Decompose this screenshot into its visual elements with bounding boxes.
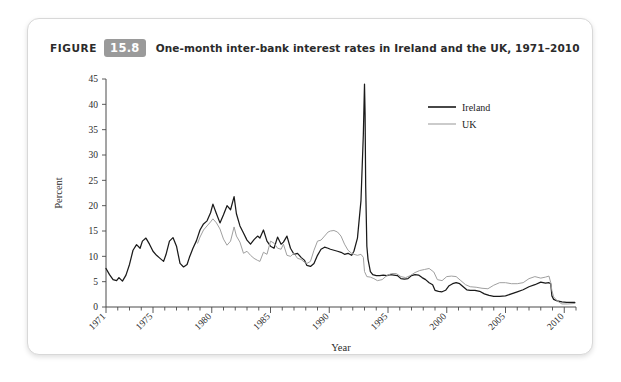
chart-plot-area: 051015202530354045 197119751980198519901… <box>28 67 594 357</box>
x-tick-label: 1975 <box>134 311 155 332</box>
y-tick-label: 0 <box>93 302 98 312</box>
y-axis-tick-labels: 051015202530354045 <box>89 74 99 312</box>
series-line-ireland <box>106 84 575 302</box>
x-tick-label: 1971 <box>87 311 108 332</box>
series-lines <box>106 84 575 304</box>
figure-title: One-month inter-bank interest rates in I… <box>156 42 580 54</box>
x-tick-label: 2000 <box>428 311 449 332</box>
y-tick-label: 40 <box>89 100 99 110</box>
y-axis-tick-marks <box>102 79 106 307</box>
figure-label: FIGURE <box>50 42 97 54</box>
y-tick-label: 20 <box>89 201 99 211</box>
legend-label-ireland: Ireland <box>462 102 490 113</box>
y-tick-label: 5 <box>93 277 98 287</box>
x-axis-tick-labels: 197119751980198519901995200020052010 <box>87 311 566 332</box>
x-tick-label: 2010 <box>545 311 566 332</box>
y-tick-label: 45 <box>89 74 99 84</box>
x-tick-label: 1980 <box>193 311 214 332</box>
x-axis-title: Year <box>331 342 351 353</box>
x-tick-label: 2005 <box>486 311 507 332</box>
x-tick-label: 1990 <box>310 311 331 332</box>
y-tick-label: 10 <box>89 252 99 262</box>
interest-rate-line-chart: 051015202530354045 197119751980198519901… <box>28 67 594 357</box>
legend-label-uk: UK <box>462 119 477 130</box>
x-axis-tick-marks <box>106 307 576 313</box>
y-axis-title: Percent <box>53 177 64 209</box>
y-tick-label: 25 <box>89 176 99 186</box>
y-tick-label: 15 <box>89 226 99 236</box>
x-tick-label: 1985 <box>251 311 272 332</box>
chart-legend: IrelandUK <box>428 102 490 130</box>
figure-header: FIGURE 15.8 One-month inter-bank interes… <box>50 39 580 57</box>
figure-number-badge: 15.8 <box>104 39 146 57</box>
y-tick-label: 35 <box>89 125 99 135</box>
figure-card: FIGURE 15.8 One-month inter-bank interes… <box>27 18 593 355</box>
y-tick-label: 30 <box>89 150 99 160</box>
x-tick-label: 1995 <box>369 311 390 332</box>
